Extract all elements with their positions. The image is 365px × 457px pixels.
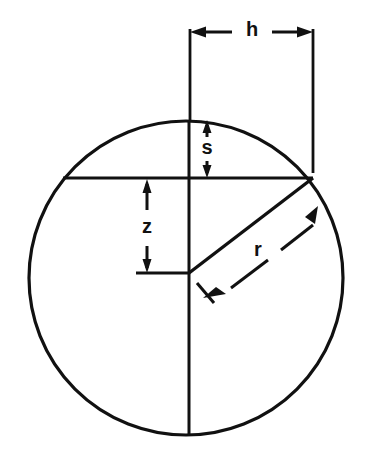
circle-cross-section-diagram: h s z r <box>0 0 365 457</box>
h-arrow-head-right <box>297 27 313 38</box>
z-label: z <box>142 215 152 237</box>
radius-line <box>189 178 313 273</box>
z-arrow-head-up <box>143 179 152 193</box>
circle-outline <box>29 121 343 435</box>
r-dimension-leader-upper <box>281 225 313 250</box>
r-dimension-leader-lower <box>231 260 268 288</box>
h-label: h <box>246 18 258 40</box>
r-arrow-head-upper <box>305 206 318 224</box>
r-label: r <box>254 238 262 260</box>
diagram-canvas: h s z r <box>0 0 365 457</box>
s-arrow-head-down <box>203 165 212 178</box>
z-arrow-head-down <box>143 259 152 273</box>
s-label: s <box>201 136 212 158</box>
h-arrow-head-left <box>190 27 206 38</box>
